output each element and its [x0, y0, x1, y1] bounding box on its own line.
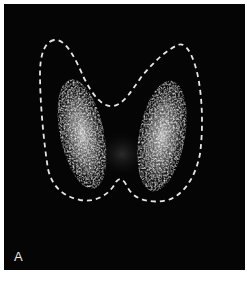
panel-label: A: [14, 250, 23, 263]
thyroid-uptake: [49, 75, 195, 195]
scan-image: A: [4, 4, 245, 270]
scan-svg: [4, 4, 245, 270]
